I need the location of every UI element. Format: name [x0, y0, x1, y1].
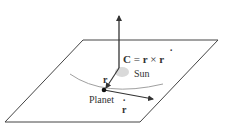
- equation-c: C: [123, 53, 131, 65]
- equation-times: ×: [148, 53, 160, 65]
- sun-icon: [115, 67, 129, 77]
- orbit-angular-momentum-diagram: C = r × r · Sun r Planet r ·: [0, 0, 229, 131]
- equation-equals: =: [131, 53, 143, 65]
- equation-rdot-dot: ·: [170, 45, 173, 56]
- orbital-plane: [5, 40, 218, 122]
- position-vector-arrow: [106, 68, 119, 88]
- sun-label: Sun: [134, 68, 150, 79]
- position-vector-label: r: [103, 74, 108, 85]
- equation-label: C = r × r: [123, 53, 164, 65]
- equation-rdot: r: [159, 53, 164, 65]
- velocity-vector-label-dot: ·: [123, 95, 126, 106]
- planet-icon: [102, 88, 107, 93]
- planet-label: Planet: [89, 94, 114, 105]
